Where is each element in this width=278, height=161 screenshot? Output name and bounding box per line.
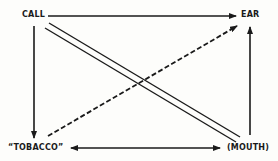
node-ear: EAR bbox=[241, 10, 259, 19]
node-call: CALL bbox=[22, 10, 45, 19]
diagram-canvas bbox=[0, 0, 278, 161]
edge-call-mouth-double-b bbox=[45, 28, 236, 142]
node-mouth: (MOUTH) bbox=[227, 143, 269, 152]
node-tobacco: “TOBACCO” bbox=[8, 143, 63, 152]
edge-tobacco-to-ear-dashed bbox=[48, 26, 237, 136]
